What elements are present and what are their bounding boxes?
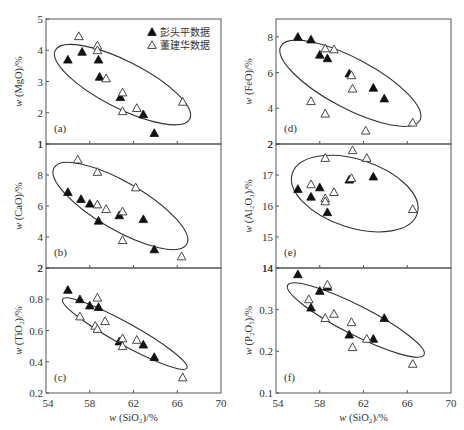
filled-triangle-marker xyxy=(64,188,73,196)
confidence-ellipse xyxy=(282,141,428,246)
open-triangle-marker xyxy=(323,280,332,288)
filled-triangle-marker xyxy=(150,129,159,137)
legend-item: 彭头平数据 xyxy=(148,26,210,38)
y-tick-label: 0.3 xyxy=(259,304,273,316)
panel-d: 4682w (FeO)/%(d) xyxy=(243,19,451,150)
open-triangle-marker xyxy=(93,168,102,176)
filled-triangle-marker xyxy=(369,83,378,91)
panel-label: (c) xyxy=(54,371,67,384)
x-tick-label: 70 xyxy=(216,397,228,409)
open-triangle-marker xyxy=(132,336,141,344)
confidence-ellipse xyxy=(281,272,431,368)
y-tick-label: 8 xyxy=(268,31,274,43)
y-tick-label: 17 xyxy=(262,169,274,181)
y-tick-label: 0.4 xyxy=(29,356,43,368)
x-axis-label: w (SiO₂)/% xyxy=(109,412,158,424)
open-triangle-marker xyxy=(102,74,111,82)
filled-triangle-marker xyxy=(94,55,103,63)
filled-triangle-icon xyxy=(148,28,157,36)
filled-triangle-marker xyxy=(294,270,303,278)
open-triangle-marker xyxy=(118,236,127,244)
legend-label: 董建华数据 xyxy=(160,39,210,51)
open-triangle-marker xyxy=(348,343,357,351)
filled-triangle-marker xyxy=(78,48,87,56)
filled-triangle-marker xyxy=(323,208,332,216)
y-axis-label: w (Al₂O₃)/% xyxy=(243,179,255,233)
filled-triangle-marker xyxy=(369,172,378,180)
y-tick-label: 0.6 xyxy=(29,325,43,337)
open-triangle-marker xyxy=(408,360,417,368)
x-tick-label: 54 xyxy=(43,397,55,409)
y-tick-label: 4 xyxy=(38,231,44,243)
plot-frame xyxy=(46,268,221,393)
y-tick-label: 15 xyxy=(262,231,274,243)
y-tick-label: 2 xyxy=(38,107,44,119)
open-triangle-marker xyxy=(102,205,111,213)
open-triangle-marker xyxy=(408,205,417,213)
open-triangle-marker xyxy=(305,295,314,303)
filled-triangle-marker xyxy=(294,185,303,193)
legend-item: 董建华数据 xyxy=(148,39,210,51)
x-tick-label: 62 xyxy=(358,397,369,409)
filled-triangle-marker xyxy=(315,183,324,191)
filled-triangle-marker xyxy=(76,295,85,303)
open-triangle-marker xyxy=(75,32,84,40)
open-triangle-marker xyxy=(93,293,102,301)
x-tick-label: 66 xyxy=(402,397,414,409)
plot-frame xyxy=(276,268,451,393)
open-triangle-marker xyxy=(178,98,187,106)
x-tick-label: 70 xyxy=(446,397,458,409)
open-triangle-marker xyxy=(321,109,330,117)
open-triangle-marker xyxy=(73,155,82,163)
filled-triangle-marker xyxy=(85,301,94,309)
open-triangle-marker xyxy=(118,88,127,96)
open-triangle-marker xyxy=(362,335,371,343)
open-triangle-marker xyxy=(178,373,187,381)
filled-triangle-marker xyxy=(307,303,316,311)
open-triangle-marker xyxy=(118,107,127,115)
y-tick-label: 2 xyxy=(268,138,274,150)
filled-triangle-marker xyxy=(307,35,316,43)
y-tick-label: 0.2 xyxy=(259,345,273,357)
y-tick-label: 0.8 xyxy=(29,293,43,305)
y-tick-label: 8 xyxy=(38,169,44,181)
y-tick-label: 2 xyxy=(38,262,44,274)
open-triangle-icon xyxy=(148,41,157,49)
filled-triangle-marker xyxy=(380,94,389,102)
panel-e: 151617214w (Al₂O₃)/%(e) xyxy=(243,138,451,274)
filled-triangle-marker xyxy=(139,215,148,223)
open-triangle-marker xyxy=(408,118,417,126)
filled-triangle-marker xyxy=(64,286,73,294)
open-triangle-marker xyxy=(131,183,140,191)
open-triangle-marker xyxy=(361,126,370,134)
y-tick-label: 4 xyxy=(268,102,274,114)
filled-triangle-marker xyxy=(150,353,159,361)
open-triangle-marker xyxy=(348,146,357,154)
panel-label: (e) xyxy=(284,246,297,259)
panel-c: 0.20.40.60.825458626670w (SiO₂)/%w (TiO₂… xyxy=(13,262,227,424)
x-tick-label: 62 xyxy=(128,397,139,409)
panel-label: (f) xyxy=(284,371,295,384)
y-axis-label: w (MgO)/% xyxy=(13,56,25,107)
x-tick-label: 58 xyxy=(314,397,326,409)
geochemistry-scatter-figure: 23451w (MgO)/%(a)46812w (CaO)/%(b)0.20.4… xyxy=(0,0,464,430)
y-tick-label: 5 xyxy=(38,13,44,25)
chart-canvas: 23451w (MgO)/%(a)46812w (CaO)/%(b)0.20.4… xyxy=(0,0,464,430)
open-triangle-marker xyxy=(330,45,339,53)
panel-f: 0.10.20.3145458626670w (SiO₂)/%w (P₂O₅)/… xyxy=(243,262,457,424)
x-tick-label: 54 xyxy=(273,397,285,409)
y-axis-label: w (P₂O₅)/% xyxy=(243,306,255,355)
panel-label: (b) xyxy=(54,246,67,259)
filled-triangle-marker xyxy=(94,216,103,224)
x-tick-label: 66 xyxy=(172,397,184,409)
x-tick-label: 58 xyxy=(84,397,96,409)
filled-triangle-marker xyxy=(77,195,86,203)
y-tick-label: 0.2 xyxy=(29,387,43,399)
legend-label: 彭头平数据 xyxy=(160,26,210,38)
panel-label: (d) xyxy=(284,122,297,135)
open-triangle-marker xyxy=(347,318,356,326)
open-triangle-marker xyxy=(321,44,330,52)
open-triangle-marker xyxy=(307,97,316,105)
y-axis-label: w (FeO)/% xyxy=(243,58,255,105)
y-axis-label: w (TiO₂)/% xyxy=(13,306,25,355)
